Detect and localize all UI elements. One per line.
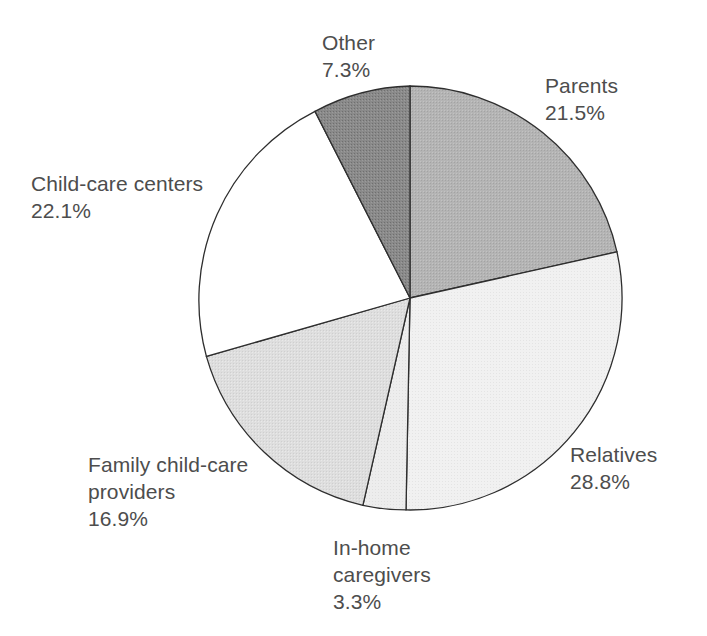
- slice-label-other-name: Other: [322, 31, 375, 54]
- slice-label-family-child-care-providers-pct: 16.9%: [88, 505, 248, 532]
- slice-label-in-home-caregivers-name-line1: In-home: [333, 536, 411, 559]
- slice-label-relatives: Relatives 28.8%: [570, 441, 657, 495]
- slice-label-parents-pct: 21.5%: [545, 99, 618, 126]
- slice-label-other-pct: 7.3%: [322, 56, 375, 83]
- slice-label-in-home-caregivers: In-home caregivers 3.3%: [333, 534, 431, 615]
- slice-label-family-child-care-providers-name-line2: providers: [88, 478, 248, 505]
- slice-label-in-home-caregivers-pct: 3.3%: [333, 588, 431, 615]
- slice-label-child-care-centers: Child-care centers 22.1%: [31, 170, 203, 224]
- pie-slices: [199, 86, 622, 510]
- slice-label-other: Other 7.3%: [322, 29, 375, 83]
- slice-label-child-care-centers-name: Child-care centers: [31, 172, 203, 195]
- slice-label-parents-name: Parents: [545, 74, 618, 97]
- slice-label-parents: Parents 21.5%: [545, 72, 618, 126]
- slice-label-in-home-caregivers-name-line2: caregivers: [333, 561, 431, 588]
- pie-chart: Other 7.3% Parents 21.5% Child-care cent…: [0, 0, 707, 636]
- slice-label-family-child-care-providers-name-line1: Family child-care: [88, 453, 248, 476]
- slice-label-child-care-centers-pct: 22.1%: [31, 197, 203, 224]
- slice-label-relatives-name: Relatives: [570, 443, 657, 466]
- slice-label-relatives-pct: 28.8%: [570, 468, 657, 495]
- slice-label-family-child-care-providers: Family child-care providers 16.9%: [88, 451, 248, 532]
